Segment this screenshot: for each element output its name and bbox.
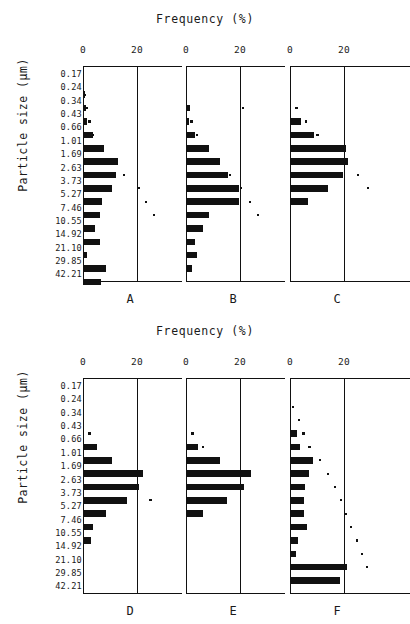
frequency-bar — [83, 118, 87, 125]
histogram-row — [290, 235, 410, 248]
histogram-row — [290, 88, 410, 101]
histogram-row — [83, 574, 182, 587]
histogram-row — [83, 115, 182, 128]
histogram-row — [83, 494, 182, 507]
cumulative-dot — [138, 187, 140, 189]
histogram-row — [83, 414, 182, 427]
frequency-bar — [290, 484, 305, 491]
histogram-row — [83, 142, 182, 155]
y-tick-labels-top: 0.170.240.340.430.661.011.692.633.735.27… — [46, 68, 82, 282]
histogram-row — [83, 276, 182, 289]
frequency-bar — [290, 457, 313, 464]
panel-f: 020 — [290, 378, 410, 594]
histogram-row — [290, 249, 410, 262]
cumulative-dot — [218, 161, 220, 163]
cumulative-dot — [94, 446, 96, 448]
y-tick-label: 10.55 — [46, 527, 82, 540]
cumulative-dot — [249, 201, 251, 203]
cumulative-dot — [357, 174, 359, 176]
y-tick-label: 0.24 — [46, 393, 82, 406]
cumulative-dot — [153, 214, 155, 216]
histogram-row — [186, 155, 285, 168]
x-tick-label: 0 — [80, 44, 86, 55]
panel-label-e: E — [213, 604, 253, 618]
histogram-row — [186, 195, 285, 208]
x-tick-label: 20 — [234, 44, 246, 55]
histogram-row — [290, 521, 410, 534]
histogram-row — [290, 414, 410, 427]
histogram-row — [290, 481, 410, 494]
frequency-bar — [83, 470, 143, 477]
histogram-row — [290, 276, 410, 289]
frequency-bar — [186, 212, 209, 219]
y-tick-label: 7.46 — [46, 514, 82, 527]
cumulative-dot — [190, 120, 192, 122]
cumulative-dot — [86, 107, 88, 109]
frequency-bar — [290, 470, 309, 477]
frequency-bar — [290, 577, 340, 584]
y-tick-label: 1.01 — [46, 135, 82, 148]
y-tick-label: 0.66 — [46, 433, 82, 446]
histogram-row — [186, 75, 285, 88]
frequency-bar — [290, 444, 300, 451]
cumulative-dot — [242, 107, 244, 109]
cumulative-dot — [84, 94, 86, 96]
histogram-row — [83, 588, 182, 601]
y-tick-label: 14.92 — [46, 540, 82, 553]
histogram-row — [186, 547, 285, 560]
cumulative-dot — [292, 406, 294, 408]
panel-label-d: D — [110, 604, 150, 618]
panel-rows — [290, 66, 410, 282]
frequency-bar — [290, 510, 304, 517]
histogram-row — [83, 387, 182, 400]
frequency-bar — [186, 172, 228, 179]
y-tick-label: 0.17 — [46, 380, 82, 393]
frequency-bar — [186, 457, 220, 464]
cumulative-dot — [224, 473, 226, 475]
panel-label-a: A — [110, 292, 150, 306]
frequency-bar — [290, 198, 308, 205]
histogram-row — [83, 235, 182, 248]
histogram-row — [290, 534, 410, 547]
cumulative-dot — [238, 486, 240, 488]
histogram-row — [83, 209, 182, 222]
histogram-row — [186, 222, 285, 235]
y-tick-label: 3.73 — [46, 487, 82, 500]
panel-rows — [83, 66, 182, 282]
cumulative-dot — [149, 499, 151, 501]
frequency-bar — [290, 172, 343, 179]
frequency-bar — [186, 105, 190, 112]
y-tick-label: 0.24 — [46, 81, 82, 94]
histogram-row — [83, 561, 182, 574]
histogram-row — [83, 75, 182, 88]
x-tick-label: 20 — [338, 44, 350, 55]
frequency-bar — [290, 132, 314, 139]
y-tick-label: 7.46 — [46, 202, 82, 215]
histogram-row — [290, 427, 410, 440]
y-tick-label: 1.69 — [46, 148, 82, 161]
histogram-row — [186, 534, 285, 547]
cumulative-dot — [92, 134, 94, 136]
histogram-row — [83, 534, 182, 547]
frequency-bar — [83, 185, 112, 192]
panel-rows — [290, 378, 410, 594]
histogram-row — [83, 182, 182, 195]
histogram-row — [186, 494, 285, 507]
frequency-bar — [186, 484, 244, 491]
histogram-row — [186, 588, 285, 601]
frequency-bar — [290, 145, 346, 152]
histogram-row — [83, 521, 182, 534]
histogram-row — [290, 209, 410, 222]
x-tick-label: 20 — [234, 356, 246, 367]
y-tick-label: 1.01 — [46, 447, 82, 460]
histogram-row — [83, 195, 182, 208]
histogram-row — [83, 547, 182, 560]
x-tick-labels: 020 — [186, 44, 285, 60]
cumulative-dot — [367, 187, 369, 189]
histogram-row — [290, 195, 410, 208]
histogram-row — [83, 102, 182, 115]
particle-size-distribution-figure: Frequency (%) Particle size (μm) 0.170.2… — [0, 0, 410, 624]
frequency-bar — [83, 265, 106, 272]
histogram-row — [290, 400, 410, 413]
panel-a: 020 — [83, 66, 182, 282]
